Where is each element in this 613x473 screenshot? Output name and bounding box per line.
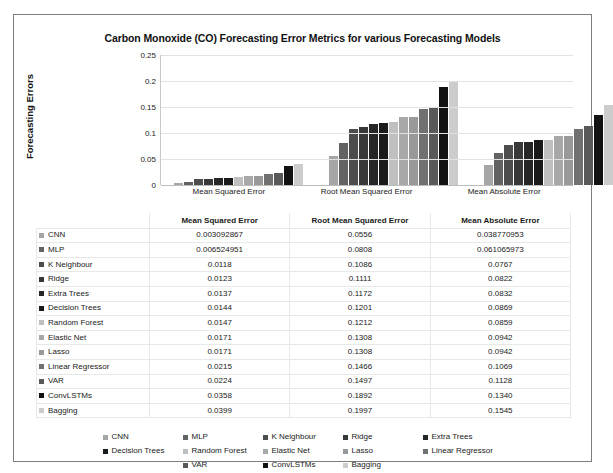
table-cell-value: 0.0144 [150,301,290,316]
legend-item[interactable]: Ridge [343,430,423,444]
table-header-cell [37,214,150,229]
legend-item[interactable]: Bagging [343,458,423,472]
bar [564,136,573,185]
table-cell-value: 0.1069 [430,359,570,374]
series-name: K Neighbour [48,260,92,269]
x-axis-label: Mean Absolute Error [435,187,573,196]
table-cell-value: 0.038770953 [430,228,570,243]
series-color-swatch [39,247,44,252]
table-cell-value: 0.0859 [430,316,570,331]
table-cell-value: 0.0171 [150,345,290,360]
gridline [161,55,573,56]
bar [534,140,543,185]
table-cell-value: 0.0358 [150,389,290,404]
x-axis-labels: Mean Squared ErrorRoot Mean Squared Erro… [160,187,573,196]
legend-color-swatch [103,449,108,454]
table-cell-value: 0.0808 [290,243,430,258]
legend-label: CNN [112,430,129,444]
legend-label: Lasso [352,444,373,458]
bar-group [471,55,613,185]
series-name: ConvLSTMs [48,391,92,400]
bar [339,143,348,185]
legend-item[interactable]: CNN [103,430,183,444]
bar [349,129,358,185]
table-row: Bagging0.03990.19970.1545 [37,403,571,418]
bar-groups [161,55,573,185]
table-cell-value: 0.0822 [430,272,570,287]
series-color-swatch [39,320,44,325]
y-axis-tick-label: 0.15 [140,103,156,112]
series-color-swatch [39,393,44,398]
bar [514,142,523,185]
bar [574,129,583,185]
table-cell-value: 0.0869 [430,301,570,316]
series-color-swatch [39,335,44,340]
legend-label: Bagging [352,458,381,472]
y-axis-tick-label: 0.2 [145,77,156,86]
legend-color-swatch [263,435,268,440]
legend-item[interactable]: Elastic Net [263,444,343,458]
legend-item[interactable]: K Neighbour [263,430,343,444]
x-axis-label: Root Mean Squared Error [298,187,436,196]
table-cell-value: 0.006524951 [150,243,290,258]
chart-page: Carbon Monoxide (CO) Forecasting Error M… [13,14,592,462]
bar [359,127,368,185]
series-name: VAR [48,376,64,385]
legend-color-swatch [183,435,188,440]
y-axis-tick-label: 0.1 [145,129,156,138]
legend-label: Extra Trees [432,430,473,444]
table-cell-value: 0.1128 [430,374,570,389]
legend-item[interactable]: Decision Trees [103,444,183,458]
legend-color-swatch [183,463,188,468]
bar [439,87,448,185]
bar [274,173,283,185]
axis-baseline [161,185,573,186]
bar [419,109,428,185]
series-color-swatch [39,408,44,413]
bar [234,177,243,185]
gridline [161,133,573,134]
legend-item[interactable]: VAR [183,458,263,472]
series-name: Bagging [48,406,77,415]
table-cell-value: 0.0123 [150,272,290,287]
table-cell-series-name: Extra Trees [37,286,150,301]
table-cell-value: 0.1111 [290,272,430,287]
table-header-cell: Root Mean Squared Error [290,214,430,229]
legend-item[interactable]: Random Forest [183,444,263,458]
table-row: K Neighbour0.01180.10860.0767 [37,257,571,272]
legend-item[interactable]: ConvLSTMs [263,458,343,472]
table-row: Lasso0.01710.13080.0942 [37,345,571,360]
table-cell-value: 0.1201 [290,301,430,316]
legend-item[interactable]: MLP [183,430,263,444]
table-cell-series-name: Random Forest [37,316,150,331]
legend-item[interactable]: Linear Regressor [423,444,503,458]
table-cell-value: 0.0942 [430,345,570,360]
bar [604,105,613,185]
table-cell-series-name: VAR [37,374,150,389]
table-cell-value: 0.0399 [150,403,290,418]
legend-item[interactable]: Lasso [343,444,423,458]
table-cell-value: 0.1172 [290,286,430,301]
legend-color-swatch [183,449,188,454]
bar-group [316,55,471,185]
bar [494,153,503,185]
table-cell-series-name: Decision Trees [37,301,150,316]
table-cell-value: 0.1892 [290,389,430,404]
table-cell-value: 0.1340 [430,389,570,404]
legend-item[interactable]: Extra Trees [423,430,503,444]
table-cell-series-name: Bagging [37,403,150,418]
bar [504,145,513,185]
legend-label: ConvLSTMs [272,458,316,472]
table-cell-series-name: Elastic Net [37,330,150,345]
table-cell-value: 0.061065973 [430,243,570,258]
gridline [161,81,573,82]
bar [594,115,603,185]
x-axis-label: Mean Squared Error [160,187,298,196]
table-row: ConvLSTMs0.03580.18920.1340 [37,389,571,404]
bar [399,117,408,185]
bar [254,176,263,185]
bar [224,178,233,185]
y-axis-title: Forecasting Errors [24,49,35,185]
legend-label: Random Forest [192,444,247,458]
series-name: MLP [48,245,64,254]
